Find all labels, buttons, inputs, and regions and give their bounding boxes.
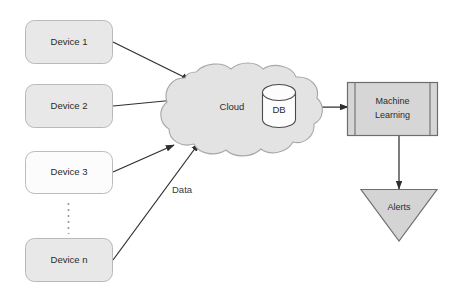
edge-device-1-to-cloud: [113, 42, 190, 80]
database-label: DB: [272, 104, 285, 115]
edge-device-n-to-cloud: [113, 143, 199, 260]
diagram-canvas: Device 1 Device 2 Device 3 Device n Clou…: [0, 0, 472, 307]
node-machine-learning[interactable]: Machine Learning: [348, 83, 438, 136]
node-database[interactable]: DB: [263, 85, 296, 128]
alerts-triangle[interactable]: [361, 190, 437, 242]
node-device-3[interactable]: Device 3: [26, 152, 113, 194]
node-cloud[interactable]: Cloud: [161, 63, 323, 156]
device-3-label: Device 3: [51, 166, 88, 177]
device-2-label: Device 2: [51, 100, 88, 111]
device-n-label: Device n: [51, 254, 88, 265]
node-device-1[interactable]: Device 1: [26, 21, 113, 64]
device-1-label: Device 1: [51, 36, 88, 47]
machine-learning-box[interactable]: [348, 83, 438, 136]
edge-label-data: Data: [172, 184, 193, 195]
cloud-label: Cloud: [220, 101, 245, 112]
alerts-label: Alerts: [387, 202, 411, 212]
diagram-svg: Device 1 Device 2 Device 3 Device n Clou…: [0, 0, 472, 307]
node-alerts[interactable]: Alerts: [361, 190, 437, 242]
edge-device-3-to-cloud: [113, 145, 174, 172]
node-device-2[interactable]: Device 2: [26, 85, 113, 128]
node-device-n[interactable]: Device n: [26, 239, 113, 282]
machine-learning-label-line-1: Machine: [375, 96, 409, 106]
machine-learning-label-line-2: Learning: [375, 110, 410, 120]
database-cylinder-top: [263, 85, 296, 101]
